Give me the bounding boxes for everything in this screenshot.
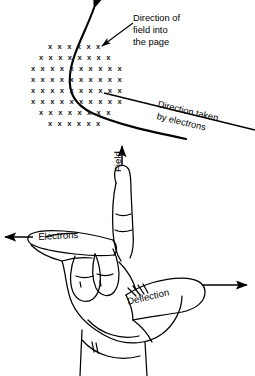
field-x-mark: x bbox=[60, 98, 64, 106]
field-x-mark: x bbox=[98, 87, 102, 95]
label-field-into-page-line2: field into bbox=[133, 25, 180, 37]
field-x-mark: x bbox=[41, 65, 45, 73]
wrist-right-edge bbox=[145, 342, 147, 376]
field-x-mark: x bbox=[68, 54, 72, 62]
field-x-mark: x bbox=[68, 109, 72, 117]
field-x-mark: x bbox=[117, 98, 121, 106]
field-x-mark: x bbox=[39, 54, 43, 62]
field-x-mark: x bbox=[106, 54, 110, 62]
field-x-mark: x bbox=[48, 120, 52, 128]
field-x-mark: x bbox=[79, 87, 83, 95]
field-x-mark: x bbox=[97, 109, 101, 117]
field-x-mark: x bbox=[41, 76, 45, 84]
field-callout-pointer bbox=[102, 23, 133, 46]
field-x-mark: x bbox=[69, 87, 73, 95]
field-x-mark: x bbox=[108, 98, 112, 106]
physics-diagram-figure: xxxxxxxxxxxxxxxxxxxxxxxxxxxxxxxxxxxxxxxx… bbox=[0, 0, 255, 376]
field-x-mark: x bbox=[31, 98, 35, 106]
field-x-mark: x bbox=[50, 87, 54, 95]
field-x-mark: x bbox=[60, 65, 64, 73]
field-x-mark: x bbox=[58, 109, 62, 117]
field-x-mark: x bbox=[50, 76, 54, 84]
palm-right-contour bbox=[133, 320, 152, 342]
field-x-mark: x bbox=[96, 43, 100, 51]
field-x-mark: x bbox=[58, 43, 62, 51]
field-x-mark: x bbox=[89, 76, 93, 84]
wrist-hatch-1 bbox=[92, 342, 94, 352]
ring-finger-crease bbox=[76, 276, 93, 278]
field-x-mark: x bbox=[106, 109, 110, 117]
field-x-mark: x bbox=[31, 87, 35, 95]
field-x-mark: x bbox=[86, 43, 90, 51]
index-finger bbox=[115, 165, 134, 258]
field-x-mark: x bbox=[60, 76, 64, 84]
field-x-mark: x bbox=[98, 65, 102, 73]
label-electrons: Electrons bbox=[38, 229, 79, 243]
field-x-mark: x bbox=[79, 76, 83, 84]
label-field-into-page-line3: the page bbox=[133, 37, 180, 49]
field-x-mark: x bbox=[89, 98, 93, 106]
field-x-mark: x bbox=[50, 65, 54, 73]
field-x-mark: x bbox=[117, 76, 121, 84]
knuckle-mark-1 bbox=[80, 282, 81, 287]
hand-drawing bbox=[28, 165, 205, 376]
field-x-mark: x bbox=[98, 76, 102, 84]
index-finger-crease-1 bbox=[116, 214, 131, 216]
field-x-mark: x bbox=[67, 43, 71, 51]
field-x-mark: x bbox=[77, 43, 81, 51]
field-x-mark: x bbox=[69, 98, 73, 106]
field-x-mark: x bbox=[87, 54, 91, 62]
field-x-mark: x bbox=[108, 87, 112, 95]
field-x-mark: x bbox=[86, 120, 90, 128]
field-x-mark: x bbox=[39, 109, 43, 117]
field-x-mark: x bbox=[49, 54, 53, 62]
field-x-mark: x bbox=[31, 65, 35, 73]
field-x-mark: x bbox=[96, 120, 100, 128]
field-x-mark: x bbox=[50, 98, 54, 106]
field-x-mark: x bbox=[41, 98, 45, 106]
field-x-mark: x bbox=[31, 76, 35, 84]
field-x-mark: x bbox=[108, 76, 112, 84]
wrist-left-edge bbox=[80, 330, 82, 376]
field-x-mark: x bbox=[89, 65, 93, 73]
field-x-mark: x bbox=[79, 98, 83, 106]
field-x-mark: x bbox=[89, 87, 93, 95]
field-x-mark: x bbox=[58, 120, 62, 128]
index-finger-crease-2 bbox=[115, 230, 132, 232]
palm-lower-crease bbox=[88, 320, 139, 337]
field-x-mark: x bbox=[69, 65, 73, 73]
label-field-into-page-line1: Direction of bbox=[133, 13, 180, 25]
field-x-mark: x bbox=[97, 54, 101, 62]
field-x-mark: x bbox=[77, 109, 81, 117]
field-x-mark: x bbox=[117, 65, 121, 73]
field-x-mark: x bbox=[58, 54, 62, 62]
field-x-mark: x bbox=[41, 87, 45, 95]
palm-thumb-web bbox=[62, 258, 92, 261]
field-x-mark: x bbox=[77, 120, 81, 128]
field-x-mark: x bbox=[48, 43, 52, 51]
field-x-mark: x bbox=[87, 109, 91, 117]
field-x-mark: x bbox=[69, 76, 73, 84]
field-x-mark: x bbox=[108, 65, 112, 73]
field-x-mark: x bbox=[60, 87, 64, 95]
field-x-mark: x bbox=[79, 65, 83, 73]
field-x-mark: x bbox=[67, 120, 71, 128]
little-finger-crease bbox=[97, 274, 113, 276]
field-x-mark: x bbox=[117, 87, 121, 95]
label-field: Field bbox=[112, 151, 124, 172]
field-x-mark: x bbox=[49, 109, 53, 117]
field-x-mark: x bbox=[98, 98, 102, 106]
field-x-mark: x bbox=[77, 54, 81, 62]
label-field-into-page: Direction of field into the page bbox=[133, 13, 180, 49]
